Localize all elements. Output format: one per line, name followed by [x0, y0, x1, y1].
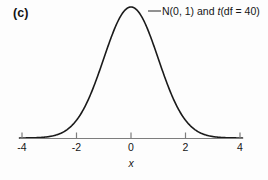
density-curve-shape — [19, 7, 242, 138]
x-tick-label--2: -2 — [65, 141, 89, 153]
series-label-lead: N(0, 1) and — [162, 5, 217, 17]
distribution-plot — [0, 0, 268, 180]
figure-panel: (c) N(0, 1) and t(df = 40) -4 -2 0 2 4 x — [0, 0, 268, 180]
series-label-tail: (df = 40) — [220, 5, 259, 17]
x-tick-label-4: 4 — [228, 141, 252, 153]
x-axis-title: x — [119, 157, 143, 169]
series-annotation-label: N(0, 1) and t(df = 40) — [162, 4, 260, 18]
x-tick-label-0: 0 — [119, 141, 143, 153]
x-tick-label--4: -4 — [10, 141, 34, 153]
x-tick-label-2: 2 — [174, 141, 198, 153]
